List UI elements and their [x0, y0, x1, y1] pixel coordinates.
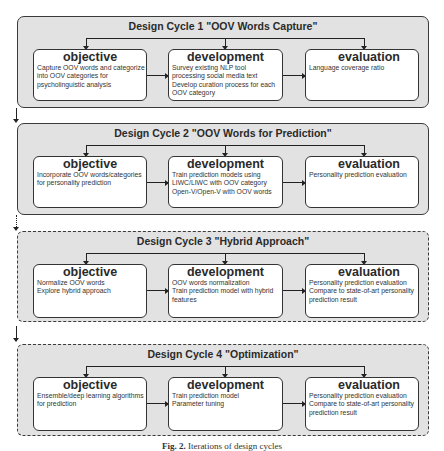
- development-box: development Train prediction model Param…: [168, 377, 283, 431]
- arrow-development-to-evaluation: [283, 290, 305, 291]
- objective-title: objective: [37, 379, 143, 392]
- arrow-to-evaluation: [364, 366, 365, 375]
- evaluation-title: evaluation: [309, 379, 415, 392]
- development-text: Open-V/Open-V with OOV words: [172, 188, 279, 196]
- development-title: development: [172, 379, 279, 392]
- design-cycle-1: Design Cycle 1 "OOV Words Capture" objec…: [17, 16, 429, 108]
- arrow-cycle2-to-cycle3: [16, 215, 17, 229]
- objective-text: Incorporate OOV words/categories: [37, 171, 143, 179]
- arrow-to-evaluation: [364, 145, 365, 154]
- arrow-to-objective: [86, 366, 87, 375]
- arrow-development-to-evaluation: [283, 403, 305, 404]
- development-box: development Survey existing NLP tool pro…: [168, 49, 283, 101]
- arrow-objective-to-development: [147, 75, 168, 76]
- arrow-to-development: [225, 145, 226, 154]
- development-text: features: [172, 296, 279, 304]
- objective-text: Capture OOV words and categorize: [37, 64, 143, 72]
- arrow-objective-to-development: [147, 182, 168, 183]
- arrow-to-development: [225, 366, 226, 375]
- figure-caption-text: Iterations of design cycles: [188, 441, 282, 451]
- arrow-to-evaluation: [364, 253, 365, 262]
- development-text: LIWC/LIWC with OOV category: [172, 179, 279, 187]
- arrow-cycle1-to-cycle2: [16, 108, 17, 121]
- evaluation-box: evaluation Language coverage ratio: [305, 49, 419, 101]
- objective-text: for prediction: [37, 400, 143, 408]
- evaluation-text: Language coverage ratio: [309, 64, 415, 72]
- arrow-to-objective: [86, 253, 87, 262]
- development-text: OOV words normalization: [172, 279, 279, 287]
- objective-text: Ensemble/deep learning algorithms: [37, 392, 143, 400]
- objective-text: into OOV categories for: [37, 72, 143, 80]
- objective-box: objective Normalize OOV words Explore hy…: [33, 264, 147, 318]
- objective-text: for personality prediction: [37, 179, 143, 187]
- design-cycle-3: Design Cycle 3 "Hybrid Approach" objecti…: [17, 231, 429, 322]
- evaluation-text: Personality prediction evaluation: [309, 171, 415, 179]
- development-text: Train prediction models using: [172, 171, 279, 179]
- development-text: Train prediction model with hybrid: [172, 287, 279, 295]
- development-text: OOV category: [172, 89, 279, 97]
- evaluation-title: evaluation: [309, 51, 415, 64]
- development-box: development Train prediction models usin…: [168, 156, 283, 208]
- arrow-to-objective: [86, 145, 87, 154]
- evaluation-box: evaluation Personality prediction evalua…: [305, 377, 419, 431]
- evaluation-title: evaluation: [309, 266, 415, 279]
- objective-title: objective: [37, 266, 143, 279]
- objective-box: objective Capture OOV words and categori…: [33, 49, 147, 101]
- cycle-title: Design Cycle 4 "Optimization": [18, 348, 428, 360]
- design-cycle-4: Design Cycle 4 "Optimization" objective …: [17, 344, 429, 436]
- evaluation-text: Compare to state-of-art personality: [309, 400, 415, 408]
- arrow-development-to-evaluation: [283, 75, 305, 76]
- evaluation-text: prediction result: [309, 409, 415, 417]
- figure-label: Fig. 2.: [162, 441, 186, 451]
- development-text: Survey existing NLP tool: [172, 64, 279, 72]
- arrow-to-objective: [86, 38, 87, 47]
- arrow-to-development: [225, 253, 226, 262]
- development-text: processing social media text: [172, 72, 279, 80]
- objective-text: psycholinguistic analysis: [37, 81, 143, 89]
- objective-text: Normalize OOV words: [37, 279, 143, 287]
- arrow-development-to-evaluation: [283, 182, 305, 183]
- evaluation-box: evaluation Personality prediction evalua…: [305, 264, 419, 318]
- objective-text: Explore hybrid approach: [37, 287, 143, 295]
- arrow-objective-to-development: [147, 290, 168, 291]
- development-title: development: [172, 266, 279, 279]
- development-box: development OOV words normalization Trai…: [168, 264, 283, 318]
- objective-box: objective Ensemble/deep learning algorit…: [33, 377, 147, 431]
- cycle-title: Design Cycle 1 "OOV Words Capture": [18, 20, 428, 32]
- evaluation-text: Personality prediction evaluation: [309, 392, 415, 400]
- arrow-objective-to-development: [147, 403, 168, 404]
- design-cycle-2: Design Cycle 2 "OOV Words for Prediction…: [17, 123, 429, 215]
- arrow-to-development: [225, 38, 226, 47]
- evaluation-box: evaluation Personality prediction evalua…: [305, 156, 419, 208]
- objective-title: objective: [37, 158, 143, 171]
- arrow-cycle3-to-cycle4: [16, 326, 17, 340]
- development-text: Train prediction model: [172, 392, 279, 400]
- evaluation-text: Personality prediction evaluation: [309, 279, 415, 287]
- evaluation-title: evaluation: [309, 158, 415, 171]
- development-title: development: [172, 158, 279, 171]
- objective-title: objective: [37, 51, 143, 64]
- evaluation-text: Compare to state-of-art personality: [309, 287, 415, 295]
- figure-caption: Fig. 2. Iterations of design cycles: [0, 441, 444, 451]
- cycle-title: Design Cycle 3 "Hybrid Approach": [18, 235, 428, 247]
- objective-box: objective Incorporate OOV words/categori…: [33, 156, 147, 208]
- development-text: Develop curation process for each: [172, 81, 279, 89]
- cycle-title: Design Cycle 2 "OOV Words for Prediction…: [18, 127, 428, 139]
- arrow-to-evaluation: [364, 38, 365, 47]
- development-text: Parameter tuning: [172, 400, 279, 408]
- evaluation-text: prediction result: [309, 296, 415, 304]
- development-title: development: [172, 51, 279, 64]
